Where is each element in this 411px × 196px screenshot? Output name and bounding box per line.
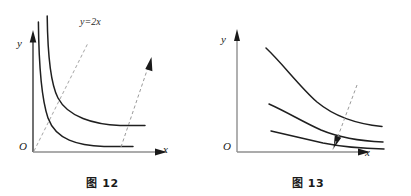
figure-12-caption: 图 12 — [0, 174, 205, 190]
y-axis-label: y — [17, 37, 22, 49]
figure-13: y x O 图 13 — [205, 0, 411, 196]
figure-13-caption: 图 13 — [205, 174, 411, 190]
x-axis — [33, 149, 167, 156]
origin-label: O — [19, 140, 27, 152]
direction-arrow-dashed — [333, 85, 358, 151]
figure-12-canvas — [0, 0, 205, 196]
curve-hyperbola-upper — [47, 16, 145, 126]
line-equation-label: y=2x — [80, 16, 101, 27]
y-axis-label: y — [221, 33, 226, 45]
x-axis-label: x — [163, 143, 168, 155]
curve-top — [266, 48, 382, 127]
figure-pair-container: y x O y=2x 图 12 — [0, 0, 411, 196]
y-axis — [30, 30, 37, 152]
direction-arrow-dashed — [121, 57, 152, 147]
x-axis-label: x — [365, 146, 370, 158]
origin-label: O — [223, 140, 231, 152]
figure-12: y x O y=2x 图 12 — [0, 0, 205, 196]
x-axis — [237, 149, 370, 156]
figure-13-canvas — [205, 0, 411, 196]
curve-middle — [269, 104, 383, 142]
y-axis — [234, 29, 240, 152]
